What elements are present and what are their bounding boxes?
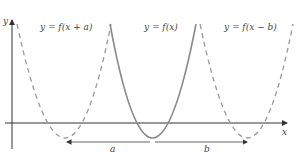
shift-a-label: a xyxy=(110,144,115,152)
y-axis-label: y xyxy=(2,16,9,26)
center-curve-label: y = f(x) xyxy=(143,22,178,32)
left-curve-label: y = f(x + a) xyxy=(39,22,93,32)
left-shifted-curve xyxy=(17,24,111,138)
shift-b-label: b xyxy=(204,144,210,152)
right-curve-label: y = f(x − b) xyxy=(223,22,277,32)
diagram-canvas: y x y = f(x + a) y = f(x) y = f(x − b) a… xyxy=(0,0,300,152)
function-translation-diagram: y x y = f(x + a) y = f(x) y = f(x − b) a… xyxy=(0,0,300,152)
center-curve xyxy=(110,24,196,138)
right-shifted-curve xyxy=(200,24,293,138)
x-axis-label: x xyxy=(282,127,287,137)
